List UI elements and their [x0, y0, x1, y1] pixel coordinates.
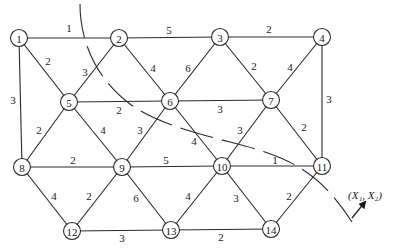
edge-weight-label: 4: [150, 62, 156, 74]
node-label: 4: [319, 32, 325, 44]
node-9: 9: [114, 159, 131, 176]
node-12: 12: [64, 223, 81, 240]
node-10: 10: [214, 158, 231, 175]
edge-6-10: [170, 101, 222, 166]
edge-12-13: [72, 230, 171, 231]
edge-weight-label: 2: [301, 121, 307, 133]
edge-weight-label: 3: [119, 232, 125, 244]
node-4: 4: [314, 29, 331, 46]
node-label: 3: [217, 32, 223, 44]
edge-11-14: [271, 166, 322, 229]
edge-7-10: [222, 100, 271, 166]
node-label: 12: [67, 226, 78, 238]
node-label: 2: [116, 33, 122, 45]
node-13: 13: [163, 222, 180, 239]
edge-9-10: [122, 166, 222, 167]
node-label: 8: [19, 162, 25, 174]
node-label: 10: [217, 161, 229, 173]
edge-weight-label: 3: [82, 66, 88, 78]
weighted-graph-diagram: 152234624332324343225142643232 123456789…: [0, 0, 393, 252]
node-label: 1: [16, 33, 22, 45]
edge-2-3: [119, 37, 220, 38]
edge-weight-label: 2: [251, 60, 257, 72]
edge-weight-label: 4: [287, 61, 293, 73]
node-label: 6: [167, 96, 173, 108]
node-label: 14: [266, 224, 278, 236]
edge-5-6: [69, 101, 170, 102]
edge-4-7: [271, 37, 322, 100]
edge-weight-label: 3: [217, 103, 223, 115]
edge-weight-label: 3: [233, 192, 239, 204]
edge-weight-label: 2: [70, 154, 76, 166]
graph-nodes: 1234567891011121314: [11, 29, 331, 240]
edge-weight-label: 2: [45, 55, 51, 67]
node-label: 13: [166, 225, 178, 237]
edge-weight-label: 4: [191, 135, 197, 147]
direction-label: (X₁, X₂): [348, 189, 382, 202]
edge-weight-label: 6: [185, 62, 191, 74]
node-label: 9: [119, 162, 125, 174]
edge-weight-label: 3: [137, 124, 143, 136]
node-7: 7: [263, 92, 280, 109]
edge-10-14: [222, 166, 271, 229]
node-11: 11: [314, 158, 331, 175]
node-1: 1: [11, 30, 28, 47]
edge-2-5: [69, 38, 119, 102]
node-14: 14: [263, 221, 280, 238]
edge-weight-label: 4: [100, 124, 106, 136]
edge-weight-labels: 152234624332324343225142643232: [10, 22, 332, 244]
edge-13-14: [171, 229, 271, 230]
edge-3-6: [170, 37, 220, 101]
edge-9-12: [72, 167, 122, 231]
direction-arrow: (X₁, X₂): [348, 189, 382, 218]
edge-weight-label: 3: [10, 94, 16, 106]
edge-weight-label: 5: [163, 154, 169, 166]
edge-weight-label: 4: [51, 190, 57, 202]
edge-10-13: [171, 166, 222, 230]
node-2: 2: [111, 30, 128, 47]
edge-7-11: [271, 100, 322, 166]
edge-weight-label: 6: [133, 192, 139, 204]
edge-3-7: [220, 37, 271, 100]
node-label: 7: [268, 95, 274, 107]
edge-weight-label: 1: [272, 154, 278, 166]
edge-2-6: [119, 38, 170, 101]
arrow-icon: [352, 202, 365, 218]
edge-weight-label: 2: [36, 124, 42, 136]
edge-5-9: [69, 102, 122, 167]
edge-weight-label: 2: [286, 190, 292, 202]
edge-8-12: [22, 167, 72, 231]
edge-weight-label: 2: [116, 104, 122, 116]
edge-weight-label: 2: [86, 190, 92, 202]
edge-weight-label: 3: [237, 124, 243, 136]
edge-6-7: [170, 100, 271, 101]
edge-weight-label: 2: [218, 231, 224, 243]
node-label: 11: [317, 161, 328, 173]
edge-weight-label: 4: [185, 190, 191, 202]
node-5: 5: [61, 94, 78, 111]
edge-weight-label: 5: [166, 24, 172, 36]
edge-1-8: [19, 38, 22, 167]
edge-weight-label: 3: [326, 93, 332, 105]
node-6: 6: [162, 93, 179, 110]
edge-weight-label: 1: [66, 22, 72, 34]
edge-1-5: [19, 38, 69, 102]
edge-weight-label: 2: [266, 23, 272, 35]
node-3: 3: [212, 29, 229, 46]
node-8: 8: [14, 159, 31, 176]
node-label: 5: [66, 97, 72, 109]
edge-5-8: [22, 102, 69, 167]
edge-9-13: [122, 167, 171, 230]
graph-edges: [19, 37, 322, 231]
